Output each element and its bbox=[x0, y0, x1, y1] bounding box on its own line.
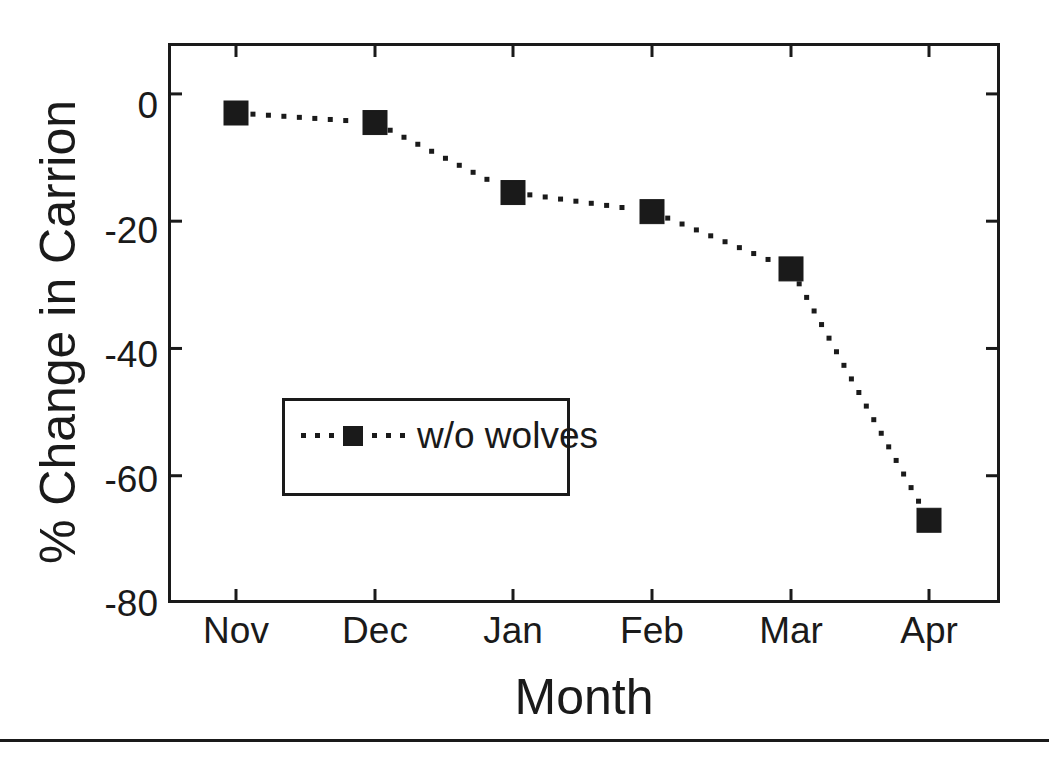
page-bottom-rule bbox=[0, 739, 1049, 742]
xtick-label-jan: Jan bbox=[433, 612, 593, 649]
legend-entry-label: w/o wolves bbox=[417, 417, 598, 454]
xtick-label-nov: Nov bbox=[156, 612, 316, 649]
legend-marker-swatch-icon bbox=[299, 420, 407, 450]
chart-figure: 0 -20 -40 -60 -80 Nov Dec Jan Feb Mar Ap… bbox=[0, 0, 1049, 759]
y-axis-title: % Change in Carrion bbox=[33, 22, 83, 642]
legend-entry-wo-wolves: w/o wolves bbox=[285, 413, 598, 457]
legend: w/o wolves bbox=[282, 398, 570, 496]
xtick-label-dec: Dec bbox=[295, 612, 455, 649]
xtick-label-mar: Mar bbox=[711, 612, 871, 649]
x-axis-title: Month bbox=[168, 672, 1000, 722]
xtick-label-apr: Apr bbox=[849, 612, 1009, 649]
xtick-label-feb: Feb bbox=[572, 612, 732, 649]
